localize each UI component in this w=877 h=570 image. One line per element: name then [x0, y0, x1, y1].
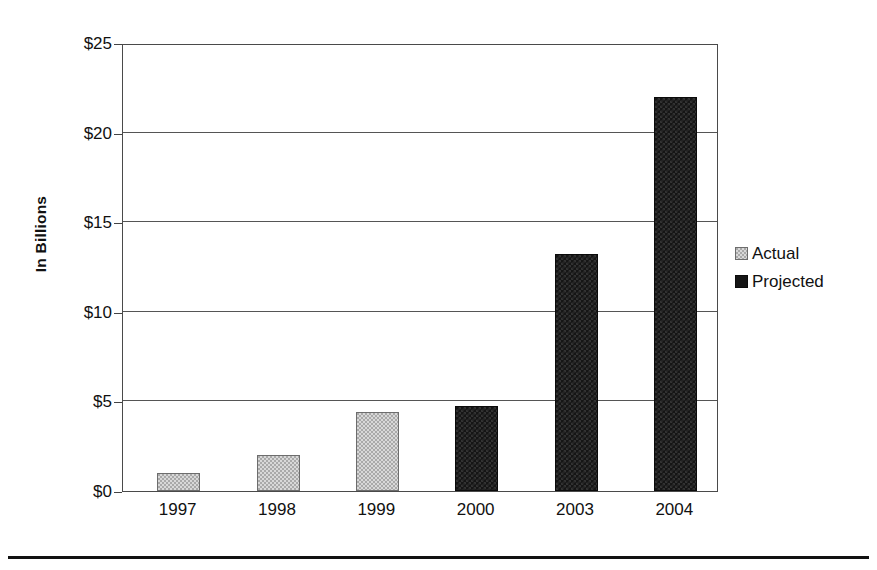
y-axis-tick-label: $0: [52, 483, 112, 500]
y-axis-tick-label: $25: [52, 35, 112, 52]
bar-1999: [356, 412, 399, 491]
legend-swatch-icon: [735, 247, 748, 260]
bar-2003: [555, 254, 598, 491]
x-axis-tick-label: 2000: [434, 500, 518, 520]
plot-area: [122, 44, 718, 492]
bar-2000: [455, 406, 498, 491]
y-axis-tick-labels: $0$5$10$15$20$25: [46, 0, 112, 570]
gridline: [123, 132, 717, 133]
y-axis-tick-mark: [114, 44, 122, 45]
x-axis-tick-labels: 199719981999200020032004: [122, 500, 718, 526]
bottom-divider-rule: [8, 556, 869, 559]
y-axis-tick-mark: [114, 492, 122, 493]
y-axis-tick-mark: [114, 134, 122, 135]
bar-2004: [654, 97, 697, 491]
x-axis-tick-label: 1997: [136, 500, 220, 520]
x-axis-tick-label: 1998: [235, 500, 319, 520]
y-axis-tick-mark: [114, 223, 122, 224]
y-axis-tick-mark: [114, 313, 122, 314]
bar-1997: [157, 473, 200, 491]
gridline: [123, 400, 717, 401]
y-axis-tick-mark: [114, 402, 122, 403]
legend-swatch-icon: [735, 275, 748, 288]
legend-item: Actual: [735, 239, 870, 267]
y-axis-tick-label: $15: [52, 214, 112, 231]
gridline: [123, 311, 717, 312]
x-axis-tick-label: 1999: [334, 500, 418, 520]
legend-item: Projected: [735, 267, 870, 295]
legend-item-label: Actual: [752, 244, 799, 263]
legend-item-label: Projected: [752, 272, 824, 291]
y-axis-tick-label: $5: [52, 393, 112, 410]
bar-chart-figure: In Billions $0$5$10$15$20$25 19971998199…: [0, 0, 877, 570]
bar-1998: [257, 455, 300, 491]
y-axis-tick-label: $20: [52, 125, 112, 142]
chart-legend: ActualProjected: [735, 239, 870, 295]
x-axis-tick-label: 2003: [533, 500, 617, 520]
x-axis-tick-label: 2004: [632, 500, 716, 520]
gridline: [123, 221, 717, 222]
y-axis-tick-label: $10: [52, 304, 112, 321]
